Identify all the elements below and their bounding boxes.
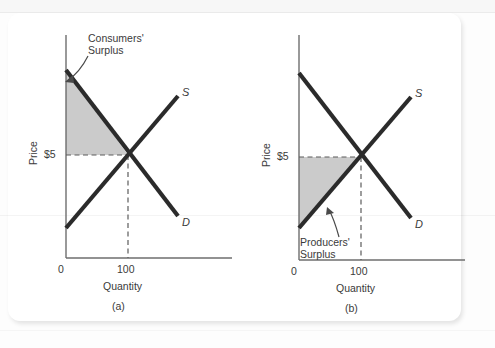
panel-a-x-axis-label: Quantity (103, 281, 142, 293)
panel-b-demand-label: D (415, 218, 423, 230)
panel-b-annotation-line2: Surplus (300, 249, 336, 261)
panel-b-origin-label: 0 (291, 266, 297, 278)
page-top-band (0, 0, 495, 12)
panel-a-quantity-tick-label: 100 (117, 264, 135, 276)
panel-a-consumer-surplus: Price $5 0 100 Quantity S D Consumers' S… (10, 13, 232, 313)
panel-b-quantity-tick-label: 100 (350, 266, 368, 278)
producer-surplus-arrowhead (326, 207, 334, 215)
panel-a-y-axis-label: Price (28, 141, 40, 165)
panel-a-supply-label: S (182, 86, 189, 98)
panel-b-supply-label: S (415, 87, 422, 99)
panel-b-price-tick-label: $5 (277, 151, 289, 163)
panel-b-x-axis-label: Quantity (336, 283, 375, 295)
panel-b-y-axis-label: Price (261, 143, 273, 167)
panel-b-annotation-line1: Producers' (300, 237, 350, 249)
panel-a-annotation-line2: Surplus (88, 45, 124, 57)
panel-a-demand-label: D (182, 216, 190, 228)
scan-artifact-line-lower (0, 330, 495, 331)
panel-a-annotation-line1: Consumers' (88, 33, 144, 45)
figure-page: Price $5 0 100 Quantity S D Consumers' S… (0, 0, 495, 348)
panel-a-origin-label: 0 (58, 264, 64, 276)
panel-a-caption: (a) (112, 301, 125, 313)
panel-a-price-tick-label: $5 (44, 149, 56, 161)
panel-b-producer-surplus: Price $5 0 100 Quantity S D Producers' S… (243, 13, 465, 313)
producer-surplus-arrow (329, 210, 339, 237)
panel-b-caption: (b) (345, 303, 358, 315)
